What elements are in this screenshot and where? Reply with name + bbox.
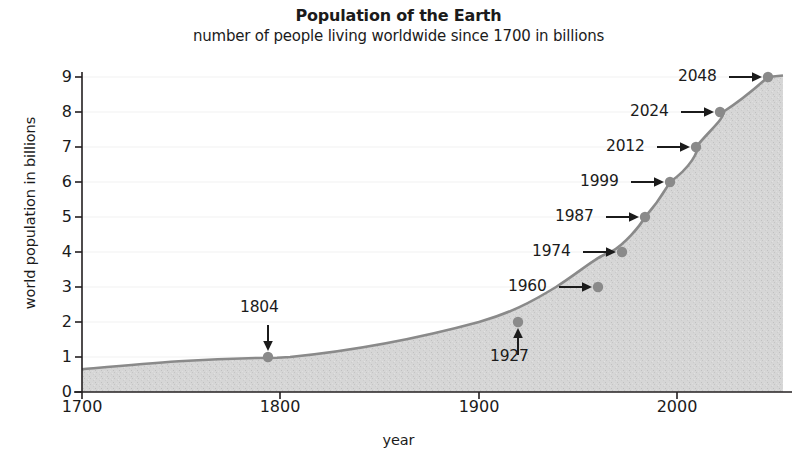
annotation-label-1927: 1927: [490, 349, 529, 365]
arrow-right-1987: [606, 212, 639, 222]
annotation-label-1987: 1987: [555, 209, 594, 225]
annotation-label-1960: 1960: [508, 279, 547, 295]
marker-2048[interactable]: [763, 72, 773, 82]
marker-1960[interactable]: [593, 282, 603, 292]
arrow-right-2024: [681, 107, 714, 117]
population-area: [82, 76, 783, 393]
arrow-right-2012: [657, 142, 690, 152]
marker-2012[interactable]: [691, 142, 701, 152]
marker-1804[interactable]: [263, 352, 273, 362]
marker-2024[interactable]: [715, 107, 725, 117]
annotation-label-1974: 1974: [532, 244, 571, 260]
marker-1999[interactable]: [665, 177, 675, 187]
annotation-label-2048: 2048: [678, 69, 717, 85]
marker-1974[interactable]: [617, 247, 627, 257]
marker-1987[interactable]: [640, 212, 650, 222]
arrow-down-1804: [263, 325, 273, 351]
annotation-label-2024: 2024: [630, 104, 669, 120]
annotation-label-1804: 1804: [240, 300, 279, 316]
annotation-label-2012: 2012: [606, 139, 645, 155]
arrow-right-2048: [729, 72, 762, 82]
arrow-right-1999: [631, 177, 664, 187]
annotation-label-1999: 1999: [580, 174, 619, 190]
marker-1927[interactable]: [513, 317, 523, 327]
chart-canvas: Population of the Earth number of people…: [0, 0, 797, 462]
